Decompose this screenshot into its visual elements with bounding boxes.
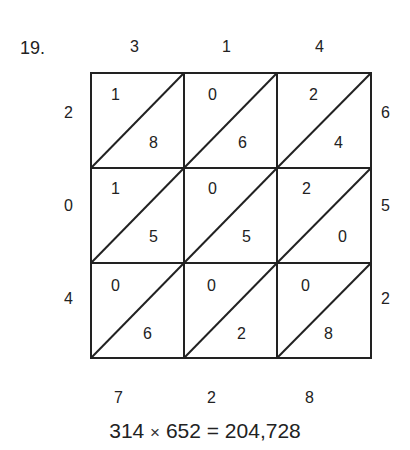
cell-ones: 2 [237, 325, 246, 343]
cell-ones: 6 [238, 134, 247, 152]
cell-tens: 0 [301, 277, 310, 295]
cell-tens: 1 [111, 86, 120, 104]
cell-tens: 2 [309, 86, 318, 104]
bottom-digit: 7 [114, 389, 123, 407]
cell-ones: 8 [149, 134, 158, 152]
cell-ones: 0 [338, 228, 347, 246]
cell-ones: 5 [149, 228, 158, 246]
cell-ones: 5 [242, 228, 251, 246]
cell-ones: 8 [324, 325, 333, 343]
equation: 314 × 652 = 204,728 [0, 419, 410, 443]
cell-tens: 0 [207, 277, 216, 295]
cell-ones: 6 [143, 325, 152, 343]
cell-tens: 0 [111, 277, 120, 295]
equation-right: 652 = 204,728 [166, 419, 301, 442]
cell-tens: 2 [302, 180, 311, 198]
cell-ones: 4 [334, 134, 343, 152]
bottom-digit: 2 [207, 389, 216, 407]
lattice-grid [0, 0, 410, 450]
equation-left: 314 [109, 419, 144, 442]
bottom-digit: 8 [305, 389, 314, 407]
times-symbol: × [150, 423, 160, 442]
cell-tens: 1 [111, 180, 120, 198]
cell-tens: 0 [208, 86, 217, 104]
cell-tens: 0 [208, 180, 217, 198]
